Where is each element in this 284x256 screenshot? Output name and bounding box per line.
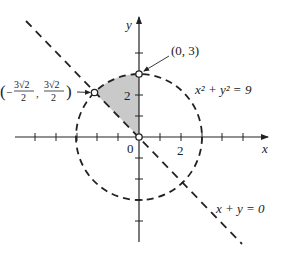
point-label-0-3: (0, 3) <box>171 43 199 58</box>
shaded-region <box>95 74 140 137</box>
circle-equation-label: x² + y² = 9 <box>194 82 252 97</box>
arrow-to-p2 <box>77 92 90 93</box>
x-tick-label-2: 2 <box>177 143 184 158</box>
svg-text:2: 2 <box>51 92 56 103</box>
point-neg-3root2-over-2 <box>91 89 97 95</box>
svg-text:2: 2 <box>21 92 26 103</box>
point-origin <box>136 134 142 140</box>
svg-text:3√2: 3√2 <box>14 79 30 90</box>
svg-text:3√2: 3√2 <box>44 79 60 90</box>
arrow-to-0-3 <box>144 56 169 71</box>
y-axis-label: y <box>124 17 132 32</box>
point-label-p2: ( − 3√2 2 , 3√2 2 ) <box>0 79 72 103</box>
svg-text:,: , <box>36 87 39 99</box>
point-0-3 <box>136 71 142 77</box>
x-axis-label: x <box>261 141 268 156</box>
y-tick-label-2: 2 <box>124 88 131 103</box>
svg-text:): ) <box>66 82 72 101</box>
svg-text:−: − <box>6 86 12 98</box>
line-equation-label: x + y = 0 <box>215 201 265 216</box>
line-curve <box>26 21 242 244</box>
origin-label: 0 <box>127 141 134 156</box>
coordinate-diagram: y x 0 2 2 (0, 3) x² + y² = 9 x + y = 0 (… <box>0 0 284 256</box>
